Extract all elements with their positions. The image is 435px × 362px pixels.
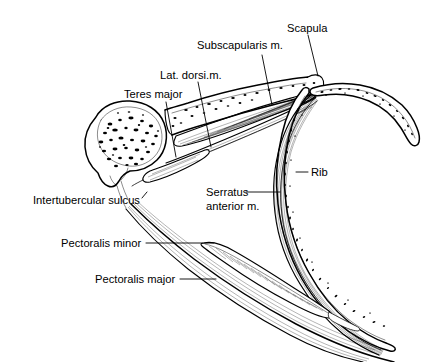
- anatomy-illustration: Scapula Subscapularis m. Lat. dorsi.m. T…: [0, 0, 435, 362]
- figure-background: [0, 0, 435, 362]
- label-pectoralis-minor: Pectoralis minor: [61, 237, 141, 249]
- label-teres-major: Teres major: [124, 88, 183, 100]
- label-rib: Rib: [311, 166, 328, 178]
- label-serratus-line1: Serratus: [206, 186, 249, 198]
- label-lat-dorsi: Lat. dorsi.m.: [160, 69, 222, 81]
- label-intertubercular-sulcus: Intertubercular sulcus: [33, 194, 140, 206]
- label-scapula: Scapula: [287, 22, 328, 34]
- anatomy-figure: Scapula Subscapularis m. Lat. dorsi.m. T…: [0, 0, 435, 362]
- label-subscapularis: Subscapularis m.: [197, 39, 283, 51]
- label-pectoralis-major: Pectoralis major: [95, 273, 175, 285]
- label-serratus-line2: anterior m.: [206, 200, 259, 212]
